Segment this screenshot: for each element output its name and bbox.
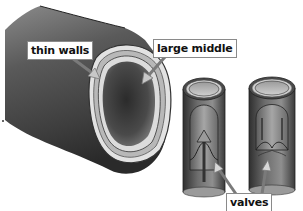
vein-diagram: thin walls large middle valves	[0, 0, 303, 211]
label-valves: valves	[226, 193, 272, 211]
vein-valve-closed	[249, 77, 295, 195]
label-large-middle: large middle	[153, 39, 237, 58]
label-thin-walls: thin walls	[27, 41, 93, 60]
vein-valve-open	[183, 78, 225, 197]
stray-dot	[2, 120, 4, 122]
diagram-illustration	[0, 0, 303, 211]
large-vein-tube	[5, 6, 171, 174]
